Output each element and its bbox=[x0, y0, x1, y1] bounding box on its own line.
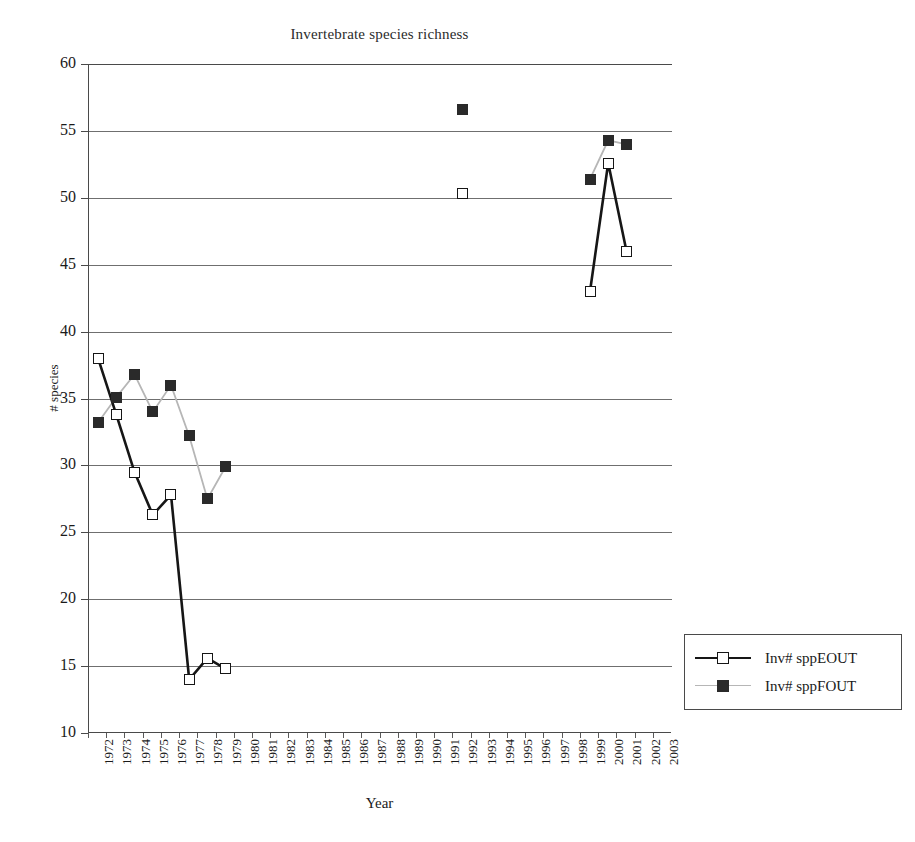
y-tick-mark-15 bbox=[81, 666, 88, 667]
x-tick-mark-1998 bbox=[562, 733, 563, 738]
x-tick-mark-1976 bbox=[161, 733, 162, 738]
y-tick-label-10: 10 bbox=[30, 724, 76, 740]
legend-label-1: Inv# sppFOUT bbox=[751, 678, 856, 695]
chart-title: Invertebrate species richness bbox=[88, 26, 671, 43]
x-tick-label-1979: 1979 bbox=[230, 739, 243, 765]
x-tick-label-1978: 1978 bbox=[211, 739, 224, 765]
x-tick-mark-1995 bbox=[507, 733, 508, 738]
data-point-1-2001 bbox=[621, 139, 632, 150]
x-tick-mark-2001 bbox=[616, 733, 617, 738]
data-point-1-1992 bbox=[457, 104, 468, 115]
x-tick-label-2000: 2000 bbox=[612, 739, 625, 765]
x-tick-label-1985: 1985 bbox=[339, 739, 352, 765]
y-tick-mark-55 bbox=[81, 131, 88, 132]
y-tick-label-30: 30 bbox=[30, 456, 76, 472]
x-tick-label-1988: 1988 bbox=[394, 739, 407, 765]
x-tick-label-1989: 1989 bbox=[412, 739, 425, 765]
y-tick-mark-30 bbox=[81, 465, 88, 466]
y-axis-label: # species bbox=[46, 328, 62, 448]
x-tick-mark-1973 bbox=[106, 733, 107, 738]
data-point-0-1999 bbox=[585, 286, 596, 297]
y-tick-label-60: 60 bbox=[30, 55, 76, 71]
x-tick-label-1999: 1999 bbox=[594, 739, 607, 765]
data-point-1-1972 bbox=[93, 417, 104, 428]
data-point-0-1978 bbox=[202, 653, 213, 664]
x-tick-label-1987: 1987 bbox=[375, 739, 388, 765]
x-tick-label-1974: 1974 bbox=[139, 739, 152, 765]
x-tick-label-1998: 1998 bbox=[576, 739, 589, 765]
y-tick-label-20: 20 bbox=[30, 590, 76, 606]
x-tick-mark-1992 bbox=[452, 733, 453, 738]
x-tick-mark-1993 bbox=[471, 733, 472, 738]
series-line-0-seg-0 bbox=[98, 358, 226, 679]
x-tick-mark-1980 bbox=[234, 733, 235, 738]
data-point-0-1977 bbox=[184, 674, 195, 685]
x-tick-label-1990: 1990 bbox=[430, 739, 443, 765]
y-tick-label-25: 25 bbox=[30, 523, 76, 539]
x-tick-label-1972: 1972 bbox=[102, 739, 115, 765]
x-tick-label-1986: 1986 bbox=[357, 739, 370, 765]
x-tick-label-1981: 1981 bbox=[266, 739, 279, 765]
x-tick-label-1991: 1991 bbox=[448, 739, 461, 765]
x-tick-mark-1975 bbox=[143, 733, 144, 738]
x-tick-mark-1987 bbox=[361, 733, 362, 738]
y-tick-mark-45 bbox=[81, 265, 88, 266]
data-point-0-2001 bbox=[621, 246, 632, 257]
x-tick-mark-1982 bbox=[270, 733, 271, 738]
legend-item-0[interactable]: Inv# sppEOUT bbox=[685, 644, 901, 672]
x-tick-label-1980: 1980 bbox=[248, 739, 261, 765]
x-tick-label-1976: 1976 bbox=[175, 739, 188, 765]
y-tick-mark-20 bbox=[81, 599, 88, 600]
x-tick-mark-1994 bbox=[489, 733, 490, 738]
x-tick-label-2003: 2003 bbox=[667, 739, 680, 765]
data-point-1-1973 bbox=[111, 392, 122, 403]
data-point-1-1975 bbox=[147, 406, 158, 417]
x-tick-mark-1997 bbox=[543, 733, 544, 738]
y-tick-mark-40 bbox=[81, 332, 88, 333]
y-tick-mark-25 bbox=[81, 532, 88, 533]
x-tick-mark-1986 bbox=[343, 733, 344, 738]
x-tick-mark-1983 bbox=[288, 733, 289, 738]
x-tick-label-1995: 1995 bbox=[521, 739, 534, 765]
x-tick-mark-1981 bbox=[252, 733, 253, 738]
data-point-0-1974 bbox=[129, 467, 140, 478]
x-tick-mark-1989 bbox=[398, 733, 399, 738]
x-tick-label-1975: 1975 bbox=[157, 739, 170, 765]
x-tick-label-1994: 1994 bbox=[503, 739, 516, 765]
x-tick-label-1983: 1983 bbox=[303, 739, 316, 765]
data-point-1-1974 bbox=[129, 369, 140, 380]
legend-item-1[interactable]: Inv# sppFOUT bbox=[685, 672, 901, 700]
chart-canvas: Invertebrate species richness # species … bbox=[0, 0, 915, 842]
x-tick-label-1982: 1982 bbox=[284, 739, 297, 765]
data-point-0-1975 bbox=[147, 509, 158, 520]
x-tick-label-1997: 1997 bbox=[558, 739, 571, 765]
x-tick-mark-2002 bbox=[635, 733, 636, 738]
data-point-1-1976 bbox=[165, 380, 176, 391]
x-tick-label-1996: 1996 bbox=[539, 739, 552, 765]
y-tick-label-55: 55 bbox=[30, 122, 76, 138]
data-point-0-1972 bbox=[93, 353, 104, 364]
data-point-1-1977 bbox=[184, 430, 195, 441]
data-point-1-1999 bbox=[585, 174, 596, 185]
x-tick-mark-1991 bbox=[434, 733, 435, 738]
x-tick-mark-1990 bbox=[416, 733, 417, 738]
x-tick-label-1973: 1973 bbox=[120, 739, 133, 765]
x-tick-mark-1979 bbox=[216, 733, 217, 738]
data-point-1-2000 bbox=[603, 135, 614, 146]
series-lines bbox=[89, 64, 672, 733]
legend-label-0: Inv# sppEOUT bbox=[751, 650, 857, 667]
x-tick-mark-1974 bbox=[124, 733, 125, 738]
y-tick-mark-60 bbox=[81, 64, 88, 65]
legend-key-open-square-icon bbox=[695, 651, 751, 665]
x-axis-label: Year bbox=[88, 795, 671, 812]
data-point-1-1978 bbox=[202, 493, 213, 504]
data-point-0-1979 bbox=[220, 663, 231, 674]
chart-legend: Inv# sppEOUT Inv# sppFOUT bbox=[684, 634, 902, 710]
x-tick-label-2001: 2001 bbox=[630, 739, 643, 765]
plot-area bbox=[88, 64, 671, 733]
x-tick-label-2002: 2002 bbox=[649, 739, 662, 765]
y-tick-mark-50 bbox=[81, 198, 88, 199]
y-tick-label-35: 35 bbox=[30, 390, 76, 406]
x-tick-label-1977: 1977 bbox=[193, 739, 206, 765]
x-tick-mark-2003 bbox=[653, 733, 654, 738]
